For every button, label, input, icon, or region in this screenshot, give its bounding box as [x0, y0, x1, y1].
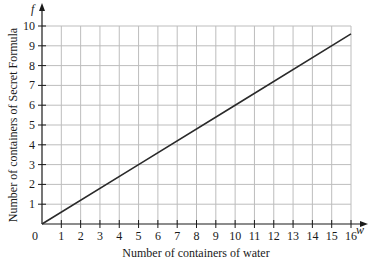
x-tick-label: 2 [78, 229, 84, 243]
tick-labels: 1234567891011121314151612345678910 [23, 19, 357, 243]
y-tick-label: 10 [23, 19, 35, 33]
x-variable-label: w [356, 223, 364, 237]
x-tick-label: 9 [213, 229, 219, 243]
x-tick-label: 4 [116, 229, 122, 243]
x-tick-label: 12 [268, 229, 280, 243]
y-tick-label: 3 [29, 158, 35, 172]
x-tick-label: 1 [58, 229, 64, 243]
x-tick-label: 7 [174, 229, 180, 243]
grid-lines [42, 26, 351, 224]
x-tick-label: 6 [155, 229, 161, 243]
x-tick-label: 5 [136, 229, 142, 243]
x-tick-label: 14 [306, 229, 318, 243]
x-tick-label: 13 [287, 229, 299, 243]
x-tick-label: 15 [326, 229, 338, 243]
x-tick-label: 10 [229, 229, 241, 243]
y-tick-label: 4 [29, 138, 35, 152]
y-tick-label: 7 [29, 78, 35, 92]
x-tick-label: 3 [97, 229, 103, 243]
axes [38, 3, 368, 228]
x-tick-label: 11 [249, 229, 261, 243]
y-axis-arrow-icon [39, 3, 45, 11]
origin-label: 0 [32, 229, 38, 243]
y-tick-label: 1 [29, 197, 35, 211]
y-tick-label: 5 [29, 118, 35, 132]
y-tick-label: 6 [29, 98, 35, 112]
y-variable-label: f [31, 2, 36, 16]
x-tick-label: 8 [194, 229, 200, 243]
line-chart: 1234567891011121314151612345678910 Numbe… [0, 0, 368, 265]
y-tick-label: 9 [29, 39, 35, 53]
y-axis-title: Number of containers of Secret Formula [6, 27, 20, 222]
y-tick-label: 8 [29, 59, 35, 73]
y-tick-label: 2 [29, 177, 35, 191]
x-axis-title: Number of containers of water [122, 246, 269, 260]
